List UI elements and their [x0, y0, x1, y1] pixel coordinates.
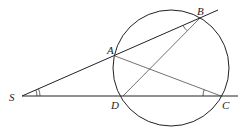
circle — [113, 10, 229, 126]
label-A: A — [106, 44, 114, 56]
angle-arc-B — [183, 26, 187, 31]
segment-AC — [115, 56, 221, 96]
diagram-canvas: S A B D C — [0, 0, 249, 131]
label-D: D — [110, 99, 119, 111]
label-S: S — [9, 91, 15, 103]
line-SB — [22, 10, 218, 96]
geometry-diagram: S A B D C — [0, 0, 249, 131]
angle-arc-C — [203, 90, 204, 96]
label-C: C — [222, 99, 230, 111]
angle-arc-S-2 — [39, 89, 41, 96]
segment-BD — [123, 18, 200, 96]
angle-arc-S-1 — [36, 90, 37, 96]
label-B: B — [197, 5, 204, 17]
